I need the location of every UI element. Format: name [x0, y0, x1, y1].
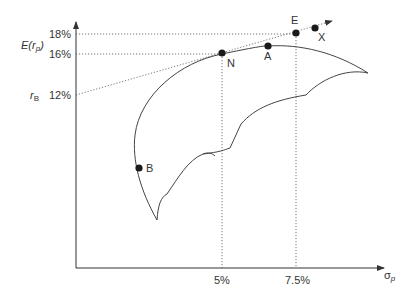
label-x: X: [318, 31, 326, 43]
feasible-set-boundary-scallop-2: [203, 153, 215, 156]
efficient-frontier-curve: [134, 46, 368, 220]
y-tick-16: 16%: [49, 48, 71, 60]
x-axis-title: σp: [384, 269, 396, 283]
risk-free-label: rB: [30, 89, 39, 103]
point-a: [264, 42, 271, 49]
y-axis-title: E(rp): [21, 39, 44, 53]
point-e: [292, 29, 299, 36]
point-b: [135, 164, 142, 171]
x-tick-5: 5%: [214, 274, 230, 286]
point-n: [218, 49, 225, 56]
x-tick-7-5: 7.5%: [285, 274, 310, 286]
label-e: E: [291, 14, 298, 26]
feasible-set-boundary: [157, 72, 368, 220]
y-tick-12: 12%: [49, 89, 71, 101]
label-n: N: [227, 57, 235, 69]
label-a: A: [264, 50, 272, 62]
y-tick-18: 18%: [49, 28, 71, 40]
label-b: B: [146, 162, 153, 174]
risk-return-diagram: N A E X B 18% 16% 12% E(rp) rB 5% 7.5% σ…: [0, 0, 411, 303]
